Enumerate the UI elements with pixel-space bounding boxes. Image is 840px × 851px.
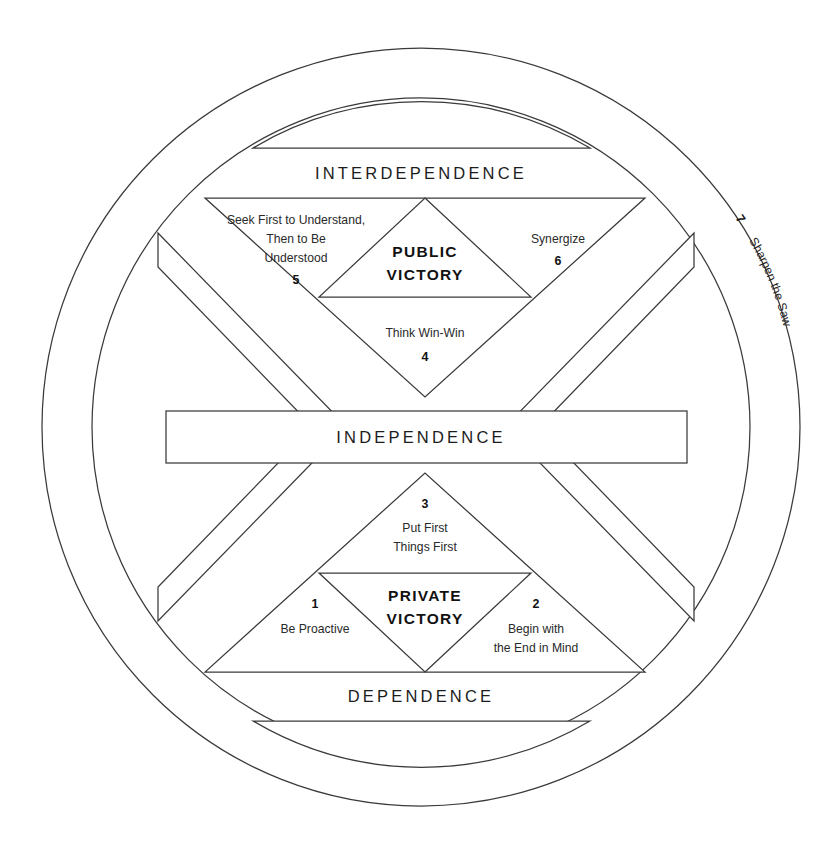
habit-1-line-1: Be Proactive [280,622,349,636]
habit-5-line-3: Understood [264,251,327,265]
tier-label-interdependence: INTERDEPENDENCE [315,164,527,182]
private-victory-label-line2: VICTORY [386,610,463,627]
private-victory-label-line1: PRIVATE [388,587,462,604]
habit-5-line-1: Seek First to Understand, [227,213,365,227]
seven-habits-maturity-continuum-diagram: INTERDEPENDENCE INDEPENDENCE DEPENDENCE … [0,0,840,851]
habit-3-number: 3 [422,497,429,511]
habit-2-number: 2 [533,597,540,611]
habit-5-line-2: Then to Be [266,232,326,246]
top-arc-segment [253,102,590,148]
public-victory-label-line1: PUBLIC [392,243,458,260]
public-victory-label-line2: VICTORY [386,266,463,283]
habit-3-line-1: Put First [402,521,448,535]
habit-7-label: Sharpen the Saw [746,235,794,328]
diagram-canvas: INTERDEPENDENCE INDEPENDENCE DEPENDENCE … [0,0,840,851]
habit-2-line-1: Begin with [508,622,564,636]
habit-5-number: 5 [293,273,300,287]
habit-3-line-2: Things First [393,540,457,554]
tier-label-independence: INDEPENDENCE [336,428,506,446]
habit-4-number: 4 [422,350,429,364]
tier-label-dependence: DEPENDENCE [348,687,495,705]
bottom-arc-segment [253,721,590,767]
habit-7-group[interactable]: 7 Sharpen the Saw [733,212,795,328]
habit-4-line-1: Think Win-Win [385,326,464,340]
habit-6-number: 6 [555,254,562,268]
habit-2-line-2: the End in Mind [494,641,579,655]
habit-1-number: 1 [312,597,319,611]
habit-6-line-1: Synergize [531,232,585,246]
